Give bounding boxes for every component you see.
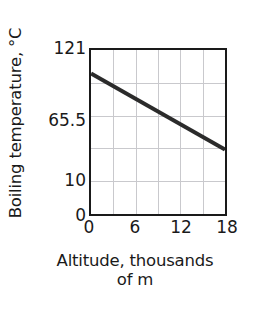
x-axis-title-line-1: Altitude, thousands <box>57 251 214 270</box>
x-tick-label-12: 12 <box>170 219 192 236</box>
y-tick-label-10: 10 <box>28 172 86 189</box>
x-tick-label-18: 18 <box>216 219 238 236</box>
data-line-svg <box>91 50 225 214</box>
data-line-boiling-temperature <box>91 73 225 149</box>
y-tick-label-0: 0 <box>28 207 86 224</box>
x-tick-label-0: 0 <box>84 219 95 236</box>
boiling-temperature-chart: Boiling temperature, °C 121 65.5 10 0 0 … <box>0 0 261 315</box>
y-tick-label-65-5: 65.5 <box>28 112 86 129</box>
x-axis-title: Altitude, thousands of m <box>30 252 240 290</box>
plot-inner <box>91 50 225 214</box>
y-tick-label-121: 121 <box>28 40 86 57</box>
x-axis-tick-labels: 0 6 12 18 <box>89 219 227 241</box>
y-axis-title: Boiling temperature, °C <box>0 8 30 238</box>
plot-area <box>89 48 227 216</box>
x-tick-label-6: 6 <box>130 219 141 236</box>
x-axis-title-line-2: of m <box>30 271 240 290</box>
